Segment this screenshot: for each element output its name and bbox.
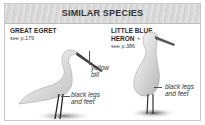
panel-header: SIMILAR SPECIES [5, 4, 200, 24]
similar-species-panel: SIMILAR SPECIES GREAT EGRET see p.179 ye… [4, 3, 201, 121]
little-blue-heron-illustration [115, 24, 201, 121]
annotation-yellow-bill: yellow bill [91, 64, 109, 78]
annotation-little-blue-heron-legs: black legs and feet [165, 83, 194, 97]
panel-title: SIMILAR SPECIES [5, 8, 200, 18]
annotation-great-egret-legs: black legs and feet [71, 91, 100, 105]
